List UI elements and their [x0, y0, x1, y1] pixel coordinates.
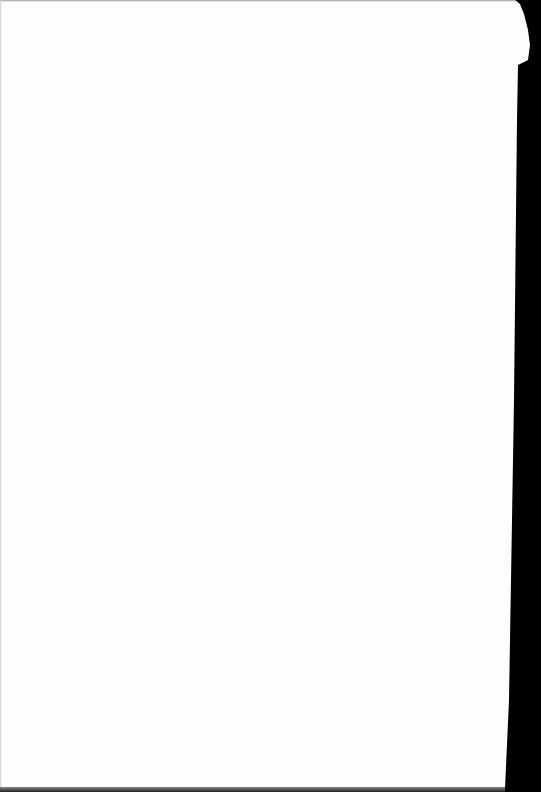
page-top-edge	[0, 0, 520, 2]
page-left-edge	[0, 0, 2, 789]
page-bottom-edge	[0, 787, 505, 792]
blank-page	[0, 0, 541, 792]
